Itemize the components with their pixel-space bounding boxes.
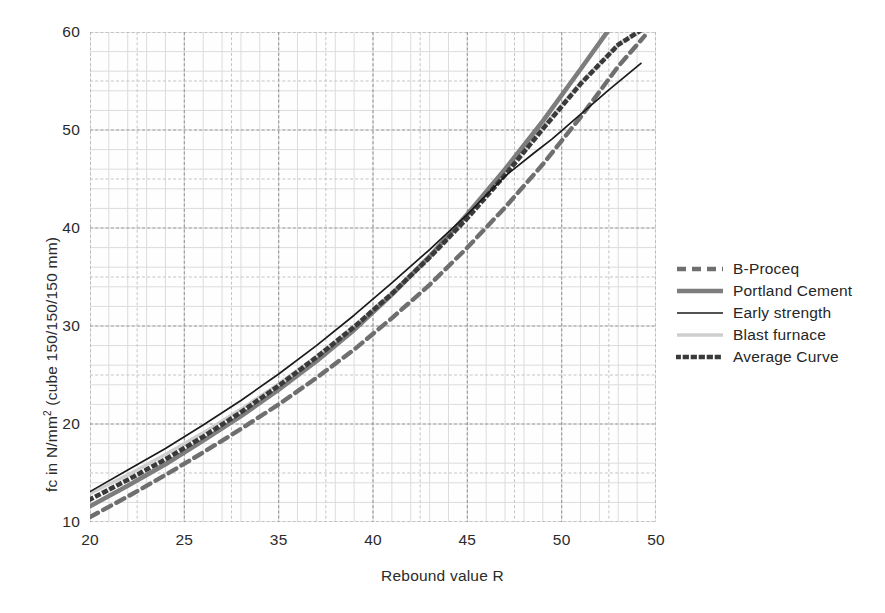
legend-item[interactable]: Early strength — [676, 302, 881, 324]
thin-solid-black-line-icon — [676, 306, 724, 320]
legend-label: Blast furnace — [733, 326, 826, 344]
y-tick-label: 10 — [44, 513, 80, 531]
y-tick-label: 60 — [44, 23, 80, 41]
series-early-strength — [90, 63, 641, 491]
legend-item[interactable]: Portland Cement — [676, 280, 881, 302]
legend-item[interactable]: Average Curve — [676, 346, 881, 368]
y-axis-title-pre: fc in N/mm — [43, 416, 60, 492]
legend-label: Average Curve — [733, 348, 839, 366]
legend-item[interactable]: B-Proceq — [676, 258, 881, 280]
x-tick-label: 40 — [364, 531, 382, 549]
y-axis-title: fc in N/mm2 (cube 150/150/150 mm) — [42, 237, 61, 492]
x-tick-label: 35 — [270, 531, 288, 549]
series-average-curve — [90, 32, 643, 499]
y-tick-label: 50 — [44, 121, 80, 139]
thick-solid-gray-line-icon — [676, 284, 724, 298]
legend-item[interactable]: Blast furnace — [676, 324, 881, 346]
legend-label: B-Proceq — [733, 260, 799, 278]
x-tick-label: 50 — [647, 531, 665, 549]
x-tick-label: 50 — [553, 531, 571, 549]
legend-label: Early strength — [733, 304, 831, 322]
y-axis-title-superscript: 2 — [42, 410, 53, 416]
plot-area — [90, 32, 656, 522]
y-axis-title-post: (cube 150/150/150 mm) — [43, 237, 60, 410]
series-portland-cement — [90, 32, 611, 506]
x-axis-title: Rebound value R — [0, 567, 885, 585]
dotted-square-line-icon — [676, 350, 724, 364]
legend: B-ProceqPortland CementEarly strengthBla… — [676, 258, 881, 368]
x-tick-label: 45 — [459, 531, 477, 549]
legend-label: Portland Cement — [733, 282, 852, 300]
data-layer — [90, 32, 656, 522]
y-tick-label: 40 — [44, 219, 80, 237]
x-tick-label: 20 — [81, 531, 99, 549]
x-tick-label: 25 — [176, 531, 194, 549]
thin-light-gray-line-icon — [676, 328, 724, 342]
chart-figure: 20253540455050 102030405060 Rebound valu… — [0, 0, 885, 613]
thick-dashed-line-icon — [676, 262, 724, 276]
